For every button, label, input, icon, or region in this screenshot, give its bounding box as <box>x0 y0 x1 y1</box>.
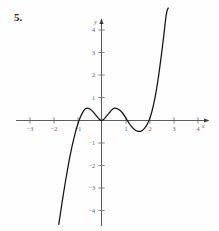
x-axis-label: x <box>201 123 205 129</box>
x-tick-label-3: 3 <box>172 125 175 132</box>
graph-plot: −3 −2 −1 1 2 3 4 4 3 2 1 −1 −2 −3 −4 x y <box>0 0 219 231</box>
x-tick-label--2: −2 <box>51 125 58 132</box>
y-tick-label-2: 2 <box>92 71 95 78</box>
x-tick-label-2: 2 <box>148 125 151 132</box>
x-tick-label-4: 4 <box>196 125 199 132</box>
figure-container: 5. −3 −2 <box>0 0 219 231</box>
y-tick-label-3: 3 <box>92 49 95 56</box>
y-tick-label-4: 4 <box>92 26 95 33</box>
x-tick-label--3: −3 <box>27 125 34 132</box>
y-tick-label--2: −2 <box>88 162 95 169</box>
y-tick-label-1: 1 <box>92 94 95 101</box>
y-tick-label--1: −1 <box>88 139 95 146</box>
function-curve <box>59 8 168 224</box>
x-tick-label-1: 1 <box>124 125 127 132</box>
y-tick-label--4: −4 <box>88 207 95 214</box>
y-axis-label: y <box>93 19 97 25</box>
y-tick-label--3: −3 <box>88 184 95 191</box>
x-axis-arrow-icon <box>204 118 210 122</box>
y-axis-arrow-icon <box>99 19 103 25</box>
